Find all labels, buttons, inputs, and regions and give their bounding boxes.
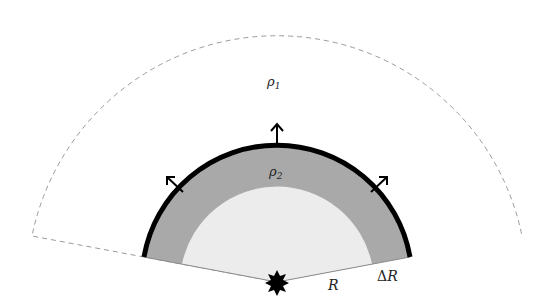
radius-label: R xyxy=(327,277,339,293)
shell-thickness-label: ΔR xyxy=(377,268,398,284)
rho1-label: ρ1 xyxy=(266,74,280,91)
diagram-canvas: ρ1 ρ2 R ΔR xyxy=(0,0,554,306)
